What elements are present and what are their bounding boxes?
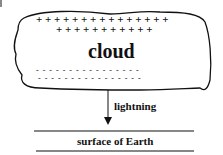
ground-label: surface of Earth — [77, 135, 153, 147]
lightning-label: lightning — [114, 100, 156, 112]
negative-charges-row-2: - - - - - - - - - - - - - - - - — [38, 74, 142, 83]
positive-charges-row-2: + + + + + + + + + + + — [56, 23, 152, 35]
lightning-arrow-head — [104, 117, 112, 125]
cloud-label: cloud — [88, 40, 135, 63]
